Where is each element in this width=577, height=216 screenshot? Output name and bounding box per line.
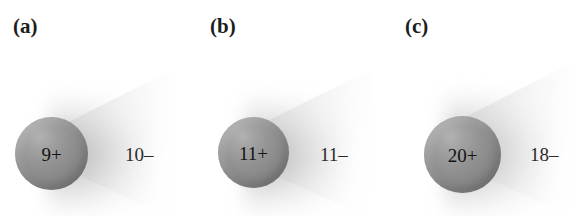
nucleus-sphere-a: 9+: [15, 117, 88, 190]
panel-label-b: (b): [210, 16, 236, 37]
panel-label-c: (c): [405, 16, 428, 37]
nucleus-sphere-c: 20+: [424, 116, 501, 193]
positive-charge-label-b: 11+: [218, 144, 289, 163]
panel-b: (b) 11+ 11–: [192, 0, 384, 216]
positive-charge-label-a: 9+: [15, 145, 88, 164]
negative-charge-label-a: 10–: [125, 145, 154, 164]
panel-c: (c) 20+ 18–: [384, 0, 577, 216]
negative-charge-label-c: 18–: [530, 145, 559, 164]
figure-canvas: (a) 9+ 10– (b) 11+ 11– (c) 20+ 18–: [0, 0, 577, 216]
panel-label-a: (a): [13, 16, 38, 37]
nucleus-sphere-b: 11+: [218, 117, 289, 188]
panel-a: (a) 9+ 10–: [0, 0, 192, 216]
positive-charge-label-c: 20+: [424, 146, 501, 165]
negative-charge-label-b: 11–: [320, 145, 348, 164]
